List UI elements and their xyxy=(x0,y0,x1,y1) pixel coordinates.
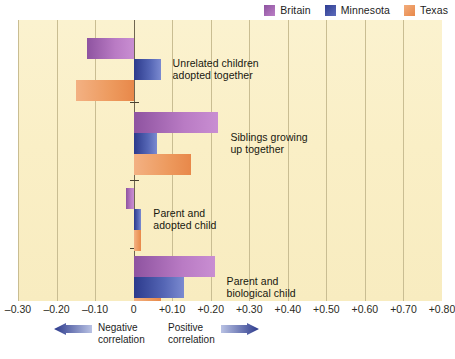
x-tick-label-7: +0.40 xyxy=(275,303,302,315)
correlation-direction-key: Negative correlation Positive correlatio… xyxy=(18,322,442,352)
arrow-left-icon xyxy=(54,323,92,335)
gridline xyxy=(365,20,366,301)
x-tick-label-8: +0.50 xyxy=(313,303,340,315)
x-tick-label-5: +0.20 xyxy=(197,303,224,315)
bar-minnesota-group-2 xyxy=(134,209,142,230)
legend-item-minnesota: Minnesota xyxy=(325,4,390,16)
zero-line-tick-0 xyxy=(130,102,139,103)
gridline xyxy=(95,20,96,301)
chart-plot-area: Unrelated children adopted togetherSibli… xyxy=(18,20,442,301)
legend-label-texas: Texas xyxy=(420,4,448,16)
bar-minnesota-group-3 xyxy=(134,277,184,298)
x-axis: –0.30–0.20–0.100+0.10+0.20+0.30+0.40+0.5… xyxy=(18,303,442,319)
bar-minnesota-group-0 xyxy=(134,59,161,80)
bar-britain-group-0 xyxy=(87,38,133,59)
bar-texas-group-2 xyxy=(134,230,142,251)
legend-swatch-texas xyxy=(404,5,415,16)
negative-correlation-label: Negative correlation xyxy=(98,322,145,345)
positive-correlation-key: Positive correlation xyxy=(168,322,259,345)
legend-label-britain: Britain xyxy=(280,4,310,16)
gridline xyxy=(57,20,58,301)
figure-caption-clipped xyxy=(8,352,448,359)
bar-texas-group-0 xyxy=(76,80,134,101)
legend-item-texas: Texas xyxy=(404,4,448,16)
gridline xyxy=(288,20,289,301)
bar-texas-group-1 xyxy=(134,154,192,175)
positive-correlation-label: Positive correlation xyxy=(168,322,215,345)
arrow-right-icon xyxy=(221,323,259,335)
group-label-2: Parent and adopted child xyxy=(153,207,216,232)
x-tick-label-1: –0.20 xyxy=(43,303,69,315)
bar-texas-group-3 xyxy=(134,298,161,301)
legend-label-minnesota: Minnesota xyxy=(341,4,390,16)
x-tick-label-9: +0.60 xyxy=(352,303,379,315)
negative-correlation-key: Negative correlation xyxy=(54,322,145,345)
bar-minnesota-group-1 xyxy=(134,133,157,154)
bar-britain-group-3 xyxy=(134,256,215,277)
x-tick-label-4: +0.10 xyxy=(159,303,186,315)
chart-legend: Britain Minnesota Texas xyxy=(264,2,448,18)
group-label-1: Siblings growing up together xyxy=(230,131,307,156)
x-tick-label-3: 0 xyxy=(131,303,137,315)
group-label-3: Parent and biological child xyxy=(227,275,296,300)
zero-line-tick-1 xyxy=(130,180,139,181)
gridline xyxy=(326,20,327,301)
legend-item-britain: Britain xyxy=(264,4,310,16)
gridline xyxy=(403,20,404,301)
x-tick-label-11: +0.80 xyxy=(429,303,455,315)
bar-britain-group-1 xyxy=(134,112,219,133)
legend-swatch-minnesota xyxy=(325,5,336,16)
x-tick-label-0: –0.30 xyxy=(5,303,31,315)
legend-swatch-britain xyxy=(264,5,275,16)
group-label-0: Unrelated children adopted together xyxy=(173,57,259,82)
x-tick-label-10: +0.70 xyxy=(390,303,417,315)
gridline xyxy=(18,20,19,301)
x-tick-label-6: +0.30 xyxy=(236,303,263,315)
x-tick-label-2: –0.10 xyxy=(82,303,108,315)
bar-britain-group-2 xyxy=(126,188,134,209)
